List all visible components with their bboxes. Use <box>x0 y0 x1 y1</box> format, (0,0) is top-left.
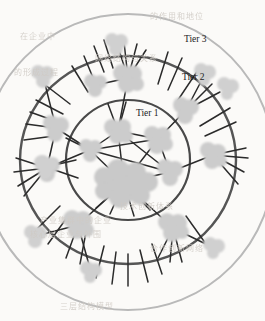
tier1-label: Tier 1 <box>136 108 159 118</box>
tier3-label: Tier 3 <box>184 34 207 44</box>
figure-canvas: Tier 1 Tier 2 Tier 3 的作用和地位在企业中网络结构与关系的形… <box>0 0 265 321</box>
tier-network-diagram: Tier 1 Tier 2 Tier 3 <box>0 0 265 321</box>
tier2-label: Tier 2 <box>182 72 205 82</box>
